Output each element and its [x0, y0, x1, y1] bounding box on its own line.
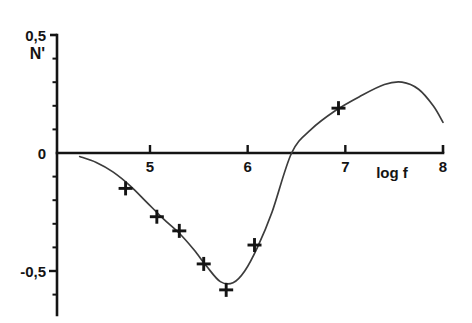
- chart-figure: 56780,50-0,5N'log f N' log f: [0, 0, 472, 323]
- fitted-curve: [80, 82, 443, 284]
- data-point-marker: [248, 238, 262, 252]
- x-tick-label: 6: [243, 158, 251, 175]
- data-series: [80, 82, 443, 297]
- y-tick-label: 0,5: [25, 27, 46, 44]
- y-axis-title-text: N': [30, 45, 45, 62]
- x-tick-label: 8: [439, 158, 447, 175]
- y-tick-label: -0,5: [20, 263, 46, 280]
- data-point-marker: [331, 101, 345, 115]
- y-tick-label: 0: [38, 145, 46, 162]
- x-axis-title-text: log f: [376, 164, 409, 181]
- data-point-marker: [219, 283, 233, 297]
- data-point-marker: [119, 181, 133, 195]
- chart-plot-area: 56780,50-0,5N'log f: [0, 0, 472, 323]
- data-point-marker: [150, 210, 164, 224]
- x-tick-label: 5: [146, 158, 154, 175]
- data-point-marker: [172, 224, 186, 238]
- x-tick-label: 7: [341, 158, 349, 175]
